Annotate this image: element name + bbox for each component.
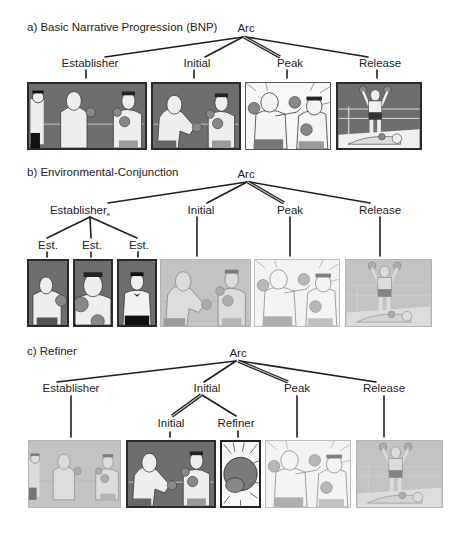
faceoff-illustration (29, 441, 120, 507)
windup-illustration (153, 84, 239, 148)
panel-a-frame-establisher (27, 82, 147, 150)
panel-b-frame-est-3 (117, 259, 157, 327)
faceoff-illustration (29, 84, 145, 148)
punch-illustration (246, 83, 330, 149)
link-b-est-3 (90, 217, 137, 238)
referee-illustration (119, 261, 155, 325)
panel-a-frame-release (336, 82, 422, 150)
victory-illustration (338, 84, 420, 148)
panel-b-frame-est-1 (27, 259, 69, 327)
panel-a-frame-peak (245, 82, 331, 150)
panel-b-frame-initial (160, 259, 251, 327)
victory-illustration (357, 441, 442, 507)
punch-illustration (255, 260, 339, 326)
windup-illustration (128, 442, 214, 506)
link-b-est-1 (47, 217, 90, 238)
link-c-initial-refiner (202, 395, 236, 416)
link-c-initial-initial-double (172, 395, 201, 416)
glove-closeup-illustration (222, 442, 259, 506)
panel-b-frame-est-2 (73, 259, 113, 327)
panel-b-frame-peak (254, 259, 340, 327)
boxer-face-illustration (75, 261, 111, 325)
panel-a-frame-initial (151, 82, 241, 150)
victory-illustration (346, 260, 431, 326)
windup-illustration (161, 260, 250, 326)
panel-c-frame-peak (265, 440, 351, 508)
link-b-est-2 (90, 217, 91, 238)
boxer-back-illustration (29, 261, 67, 325)
panel-b-frame-release (345, 259, 432, 327)
punch-illustration (266, 441, 350, 507)
panel-c-frame-release (356, 440, 443, 508)
panel-c-frame-initial (126, 440, 216, 508)
panel-c-frame-refiner (220, 440, 261, 508)
panel-c-frame-establisher (28, 440, 121, 508)
